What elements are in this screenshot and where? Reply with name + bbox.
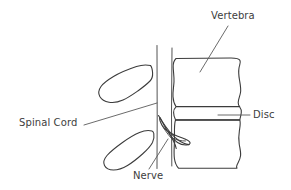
upper-spinous-process [99,65,153,102]
label-spinal-cord: Spinal Cord [19,117,77,129]
intervertebral-disc [174,107,242,120]
spine-illustration [0,0,291,190]
upper-vertebral-body [173,58,241,107]
lower-vertebral-body [174,120,241,168]
label-disc: Disc [253,109,275,121]
label-vertebra: Vertebra [211,10,255,22]
lower-spinous-process [104,131,154,170]
vertebra-leader-line [200,26,228,72]
spine-anatomy-diagram: Vertebra Disc Spinal Cord Nerve [0,0,291,190]
spinal-cord-anterior-line [172,48,173,166]
spinal-cord-leader-line [84,103,157,125]
label-nerve: Nerve [133,170,163,182]
